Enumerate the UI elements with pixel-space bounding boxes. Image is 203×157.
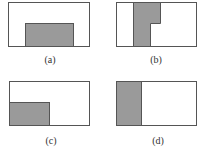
panel-d — [117, 82, 197, 126]
panel-b — [117, 3, 197, 47]
shaded-region-c — [10, 103, 50, 126]
panel-label-d: (d) — [138, 135, 178, 146]
shaded-region-a — [26, 24, 74, 47]
panel-label-a: (a) — [30, 54, 70, 65]
panel-label-b: (b) — [136, 54, 176, 65]
panel-a — [9, 3, 90, 47]
panel-label-c: (c) — [31, 135, 71, 146]
panel-c — [10, 82, 90, 126]
shaded-region-d — [117, 82, 142, 126]
figure-canvas — [0, 0, 203, 157]
